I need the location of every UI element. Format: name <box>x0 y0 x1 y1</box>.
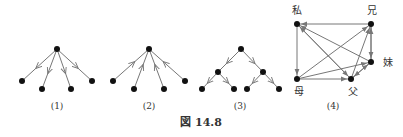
graph-node <box>276 86 282 92</box>
node-label: 私 <box>292 5 302 16</box>
panel-label: (3) <box>234 101 247 111</box>
graph-panel-3: (3) <box>199 46 282 111</box>
graph-node <box>89 78 95 84</box>
graph-node <box>368 59 374 65</box>
directed-edge <box>218 72 234 89</box>
directed-edge <box>263 72 279 89</box>
directed-edge <box>297 24 371 62</box>
graph-node <box>19 78 25 84</box>
graph-node <box>260 69 266 75</box>
directed-edge <box>113 49 149 81</box>
graph-node <box>68 86 74 92</box>
graph-panel-2: (2) <box>110 46 188 111</box>
graph-node <box>39 86 45 92</box>
graph-node <box>231 86 237 92</box>
panel-label: (2) <box>143 101 156 111</box>
graph-panel-1: (1) <box>19 46 95 111</box>
node-label: 母 <box>294 86 304 97</box>
directed-edge <box>22 49 57 81</box>
directed-edge <box>202 72 218 89</box>
graph-node <box>244 86 250 92</box>
graph-node <box>294 76 300 82</box>
node-label: 妹 <box>383 57 393 68</box>
graph-node <box>182 78 188 84</box>
graph-node <box>238 46 244 52</box>
graph-node <box>294 21 300 27</box>
graph-node <box>215 69 221 75</box>
directed-edge <box>149 49 185 81</box>
graph-node <box>54 46 60 52</box>
directed-edge <box>218 49 241 72</box>
graph-node <box>146 46 152 52</box>
directed-edge <box>42 49 57 89</box>
graph-node <box>110 78 116 84</box>
graph-node <box>368 21 374 27</box>
panel-label: (1) <box>51 101 64 111</box>
node-label: 父 <box>348 86 358 97</box>
graph-node <box>199 86 205 92</box>
graph-node <box>131 86 137 92</box>
directed-edge <box>241 49 263 72</box>
node-label: 兄 <box>367 5 377 16</box>
panel-label: (4) <box>327 101 340 111</box>
figure-caption: 図 14.8 <box>180 115 222 129</box>
graph-node <box>348 76 354 82</box>
directed-edge <box>247 72 263 89</box>
graph-panel-4: 私兄妹母父(4) <box>292 5 393 111</box>
directed-edge <box>297 24 351 79</box>
graph-node <box>161 86 167 92</box>
figure-14-8: (1)(2)(3)私兄妹母父(4) 図 14.8 <box>0 0 403 137</box>
